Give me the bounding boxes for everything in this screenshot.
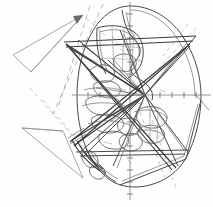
figure-canvas [0, 0, 213, 207]
line-drawing-svg [0, 0, 213, 207]
